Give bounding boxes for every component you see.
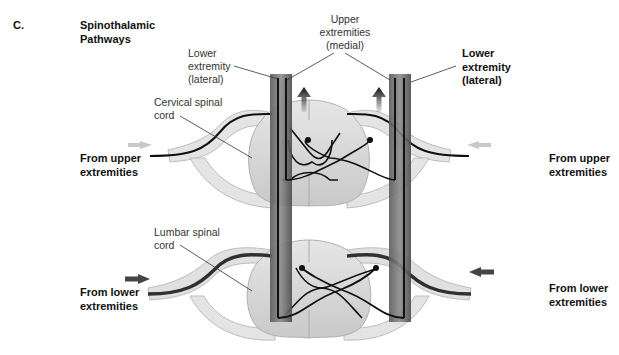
label-line: (medial) — [310, 39, 380, 52]
arrow-right-icon — [125, 274, 150, 284]
label-line: extremity — [462, 61, 511, 75]
label-lower-extremity-lateral-right: Lower extremity (lateral) — [462, 47, 511, 88]
arrow-left-icon — [467, 141, 491, 149]
label-line: From upper — [549, 152, 610, 166]
label-lower-extremity-lateral-left: Lower extremity (lateral) — [188, 47, 231, 86]
label-line: extremities — [80, 300, 139, 314]
lumbar-cord-segment — [148, 240, 471, 340]
figure-title-line: Spinothalamic — [80, 19, 155, 33]
label-lumbar-spinal-cord: Lumbar spinal cord — [154, 226, 220, 252]
label-line: extremities — [310, 26, 380, 39]
label-line: Lumbar spinal — [154, 226, 220, 239]
label-line: Lower — [188, 47, 231, 60]
label-line: (lateral) — [188, 73, 231, 86]
figure-title: Spinothalamic Pathways — [80, 19, 155, 46]
label-from-lower-extremities-right: From lower extremities — [549, 282, 608, 309]
label-line: cord — [154, 109, 222, 122]
arrow-left-icon — [469, 267, 494, 277]
label-line: extremities — [549, 166, 610, 180]
label-line: extremities — [80, 166, 141, 180]
label-line: extremity — [188, 60, 231, 73]
label-from-upper-extremities-right: From upper extremities — [549, 152, 610, 179]
label-from-upper-extremities-left: From upper extremities — [80, 152, 141, 179]
label-line: Lower — [462, 47, 511, 61]
upward-arrow-icon — [372, 87, 386, 112]
arrow-right-icon — [128, 141, 152, 149]
label-line: Upper — [310, 13, 380, 26]
panel-letter: C. — [13, 19, 24, 33]
label-cervical-spinal-cord: Cervical spinal cord — [154, 96, 222, 122]
tract-left — [270, 74, 292, 322]
label-line: (lateral) — [462, 74, 511, 88]
label-line: extremities — [549, 296, 608, 310]
tract-right — [389, 74, 411, 322]
label-line: From lower — [80, 286, 139, 300]
label-line: cord — [154, 239, 220, 252]
label-line: From lower — [549, 282, 608, 296]
label-line: Cervical spinal — [154, 96, 222, 109]
figure-title-line: Pathways — [80, 33, 155, 47]
label-from-lower-extremities-left: From lower extremities — [80, 286, 139, 313]
label-line: From upper — [80, 152, 141, 166]
label-upper-extremities-medial: Upper extremities (medial) — [310, 13, 380, 52]
